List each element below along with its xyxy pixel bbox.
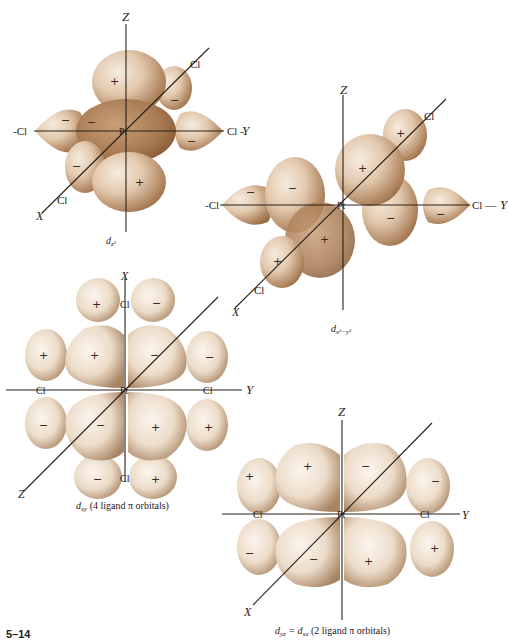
figure-number: 5–14 xyxy=(6,628,30,640)
orbital-lobe xyxy=(335,134,405,206)
orbital-lobe xyxy=(344,517,407,587)
svg-text:+: + xyxy=(39,349,48,362)
panel-dx2-y2: Z Y X -Cl Cl — Cl Cl Pt + + − − − − + + … xyxy=(205,82,508,336)
caption-dyz-dxz: dyz = dxz (2 ligand π orbitals) xyxy=(275,625,390,638)
svg-text:+: + xyxy=(364,555,373,568)
orbital-lobe xyxy=(406,458,450,514)
svg-text:−: − xyxy=(245,547,254,560)
svg-text:+: + xyxy=(151,421,160,434)
svg-text:+: + xyxy=(204,421,213,434)
axis-label-z: Z xyxy=(340,82,348,97)
metal-label: Pt xyxy=(337,509,346,520)
ligand-label: Cl xyxy=(254,284,264,296)
svg-text:+: + xyxy=(92,298,101,311)
svg-text:−: − xyxy=(187,135,196,148)
axis-label-z: Z xyxy=(122,9,130,24)
ligand-label: Cl - xyxy=(227,125,244,137)
axis-label-z: Z xyxy=(338,404,346,419)
caption-dxy: dxy (4 ligand π orbitals) xyxy=(76,500,169,513)
orbital-lobe xyxy=(275,517,340,587)
caption-dz2: dz² xyxy=(106,235,117,248)
orbital-lobe xyxy=(237,458,281,514)
svg-text:−: − xyxy=(436,208,445,221)
ligand-label: Cl xyxy=(120,473,130,484)
ligand-label: Cl xyxy=(120,299,130,310)
svg-text:+: + xyxy=(396,127,405,140)
svg-text:−: − xyxy=(87,116,96,129)
panel-dxy: X Y Z Cl Cl Cl Cl Pt + − + + − − − − + +… xyxy=(6,269,255,513)
metal-label: Pt xyxy=(120,385,129,396)
metal-label: Pt xyxy=(119,126,128,137)
panel-dyz-dxz: Z Y X Cl Cl Pt + + − − − − + + dyz = dxz… xyxy=(222,404,470,638)
svg-text:+: + xyxy=(135,176,144,189)
axis-label-x: X xyxy=(243,605,252,619)
orbital-lobe xyxy=(275,443,340,512)
svg-text:−: − xyxy=(361,460,370,473)
ligand-label: -Cl xyxy=(13,125,27,137)
svg-text:+: + xyxy=(90,349,99,362)
svg-text:+: + xyxy=(303,460,312,473)
svg-text:−: − xyxy=(39,419,48,432)
svg-text:−: − xyxy=(72,160,81,173)
svg-text:−: − xyxy=(170,94,179,107)
svg-text:−: − xyxy=(61,114,70,127)
axis-label-y: Y xyxy=(500,197,508,212)
ligand-label: Cl xyxy=(424,110,434,122)
ligand-label: Cl xyxy=(190,58,200,70)
svg-text:−: − xyxy=(386,212,395,225)
svg-text:+: + xyxy=(430,542,439,555)
axis-label-x: X xyxy=(35,209,44,223)
svg-text:−: − xyxy=(150,349,159,362)
ligand-label: -Cl xyxy=(205,199,219,211)
ligand-label: Cl — xyxy=(472,199,497,211)
axis-label-y: Y xyxy=(246,382,255,397)
svg-text:+: + xyxy=(320,233,329,246)
ligand-label: Cl xyxy=(203,385,213,396)
svg-text:+: + xyxy=(245,470,254,483)
svg-text:−: − xyxy=(431,475,440,488)
svg-text:+: + xyxy=(358,162,367,175)
axis-label-y: Y xyxy=(462,508,470,522)
orbital-lobe xyxy=(92,152,166,212)
svg-text:−: − xyxy=(246,186,255,199)
orbital-lobe xyxy=(237,519,281,575)
svg-text:+: + xyxy=(273,255,282,268)
metal-label: Pt xyxy=(337,200,346,211)
svg-text:+: + xyxy=(151,473,160,486)
caption-dx2-y2: dx²−y² xyxy=(331,323,352,336)
orbital-lobe xyxy=(344,443,407,512)
ligand-label: Cl xyxy=(253,509,263,520)
svg-text:−: − xyxy=(93,473,102,486)
svg-text:−: − xyxy=(96,419,105,432)
ligand-label: Cl xyxy=(36,385,46,396)
orbital-lobe xyxy=(65,392,124,460)
orbital-figure: Z Y X -Cl Cl - Cl Cl Pt + − − − − − + dz… xyxy=(0,0,508,643)
svg-text:−: − xyxy=(152,297,161,310)
axis-label-x: X xyxy=(231,305,240,319)
svg-text:+: + xyxy=(110,75,119,88)
svg-text:−: − xyxy=(309,553,318,566)
ligand-label: Cl xyxy=(57,194,67,206)
ligand-label: Cl xyxy=(420,509,430,520)
svg-text:−: − xyxy=(205,351,214,364)
axis-label-z: Z xyxy=(18,487,25,501)
axis-label-x: X xyxy=(120,269,129,283)
svg-text:−: − xyxy=(288,182,297,195)
panel-dz2: Z Y X -Cl Cl - Cl Cl Pt + − − − − − + dz… xyxy=(13,9,251,248)
